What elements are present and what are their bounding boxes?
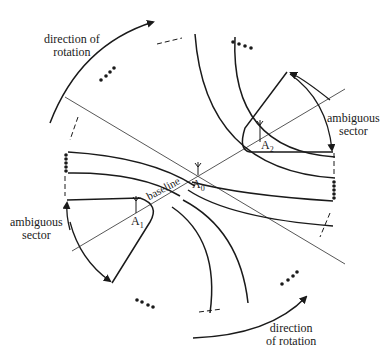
rotation-label-top: direction of rotation [44,33,100,59]
hyperbola-a1-lower-1 [172,207,212,313]
antenna-icon-a1 [133,196,139,213]
baseline-line [72,89,345,251]
ambiguous-sector-left-arc [70,222,110,281]
ambiguous-sector-label-left: ambiguous sector [10,216,63,242]
hyperbola-a2-right-2 [188,190,333,226]
hyperbola-a1-lower-2 [183,200,248,303]
perpendicular-bisector-line [65,97,345,264]
antenna-icon-a0 [195,162,201,175]
hyperbola-a2-inner [235,37,335,157]
antenna-label-a2: A2 [261,138,274,154]
ambiguous-sector-label-right: ambiguous sector [327,112,380,138]
antenna-label-a1: A1 [131,214,144,230]
hyperbola-a2-outer [195,34,335,178]
ambiguous-sector-right-outline [242,72,333,152]
antenna-label-a0: A0 [192,177,205,193]
rotation-label-bottom: direction of rotation [266,322,316,348]
